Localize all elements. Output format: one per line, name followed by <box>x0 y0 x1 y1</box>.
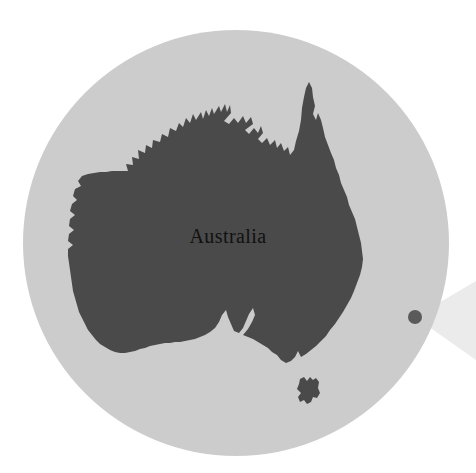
locator-map-figure: Australia <box>0 0 476 473</box>
location-marker-dot[interactable] <box>408 310 422 324</box>
map-graphic <box>0 0 476 473</box>
